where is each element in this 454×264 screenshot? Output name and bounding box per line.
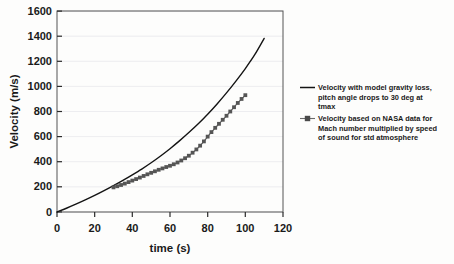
legend-label-nasa-line1: Velocity based on NASA data for (318, 114, 432, 123)
x-tick-label: 100 (236, 222, 254, 234)
nasa-data-point (161, 167, 165, 171)
nasa-data-point (232, 105, 236, 109)
x-tick-label: 120 (274, 222, 292, 234)
nasa-data-point (183, 156, 187, 160)
y-tick-label: 0 (46, 206, 52, 218)
nasa-data-point (210, 130, 214, 134)
legend-label-model-line1: Velocity with model gravity loss, (318, 83, 432, 92)
nasa-data-point (236, 101, 240, 105)
nasa-data-point (217, 122, 221, 126)
nasa-data-point (187, 154, 191, 158)
nasa-data-point (179, 159, 183, 163)
nasa-data-point (153, 169, 157, 173)
nasa-data-point (240, 97, 244, 101)
nasa-data-point (225, 114, 229, 118)
nasa-data-point (127, 180, 131, 184)
nasa-data-point (243, 93, 247, 97)
nasa-data-point (194, 148, 198, 152)
y-tick-label: 1200 (28, 55, 52, 67)
nasa-data-point (213, 126, 217, 130)
y-tick-label: 200 (34, 180, 52, 192)
nasa-data-point (142, 174, 146, 178)
nasa-data-point (115, 184, 119, 188)
x-tick-label: 60 (164, 222, 176, 234)
y-tick-label: 1400 (28, 30, 52, 42)
nasa-data-point (149, 171, 153, 175)
y-tick-label: 1600 (28, 5, 52, 17)
nasa-data-point (228, 110, 232, 114)
y-tick-label: 1000 (28, 80, 52, 92)
x-tick-label: 40 (126, 222, 138, 234)
velocity-vs-time-chart: 0 200 400 600 800 1000 1200 1400 1600 0 … (0, 0, 454, 264)
nasa-data-point (168, 164, 172, 168)
nasa-data-point (198, 144, 202, 148)
y-tick-label: 600 (34, 130, 52, 142)
nasa-data-point (112, 185, 116, 189)
nasa-data-point (119, 183, 123, 187)
nasa-data-point (130, 179, 134, 183)
nasa-data-point (221, 118, 225, 122)
nasa-data-point (202, 140, 206, 144)
y-tick-label: 400 (34, 155, 52, 167)
legend-label-model-line3: tmax (318, 102, 336, 111)
legend-label-nasa-line3: of sound for std atmosphere (318, 133, 418, 142)
nasa-data-point (191, 151, 195, 155)
nasa-data-point (176, 161, 180, 165)
legend-square-marker-icon-nasa (305, 116, 310, 121)
nasa-data-point (123, 182, 127, 186)
x-tick-label: 0 (54, 222, 60, 234)
nasa-data-point (146, 172, 150, 176)
nasa-data-point (164, 165, 168, 169)
x-tick-label: 80 (202, 222, 214, 234)
nasa-data-point (134, 177, 138, 181)
nasa-data-point (172, 162, 176, 166)
nasa-data-point (138, 176, 142, 180)
x-tick-label: 20 (89, 222, 101, 234)
y-axis-title: Velocity (m/s) (8, 74, 20, 148)
y-tick-label: 800 (34, 105, 52, 117)
nasa-data-point (206, 135, 210, 139)
x-axis-title: time (s) (150, 242, 191, 254)
legend-label-model-line2: pitch angle drops to 30 deg at (318, 93, 423, 102)
legend-label-nasa-line2: Mach number multiplied by speed (318, 124, 438, 133)
nasa-data-point (157, 168, 161, 172)
